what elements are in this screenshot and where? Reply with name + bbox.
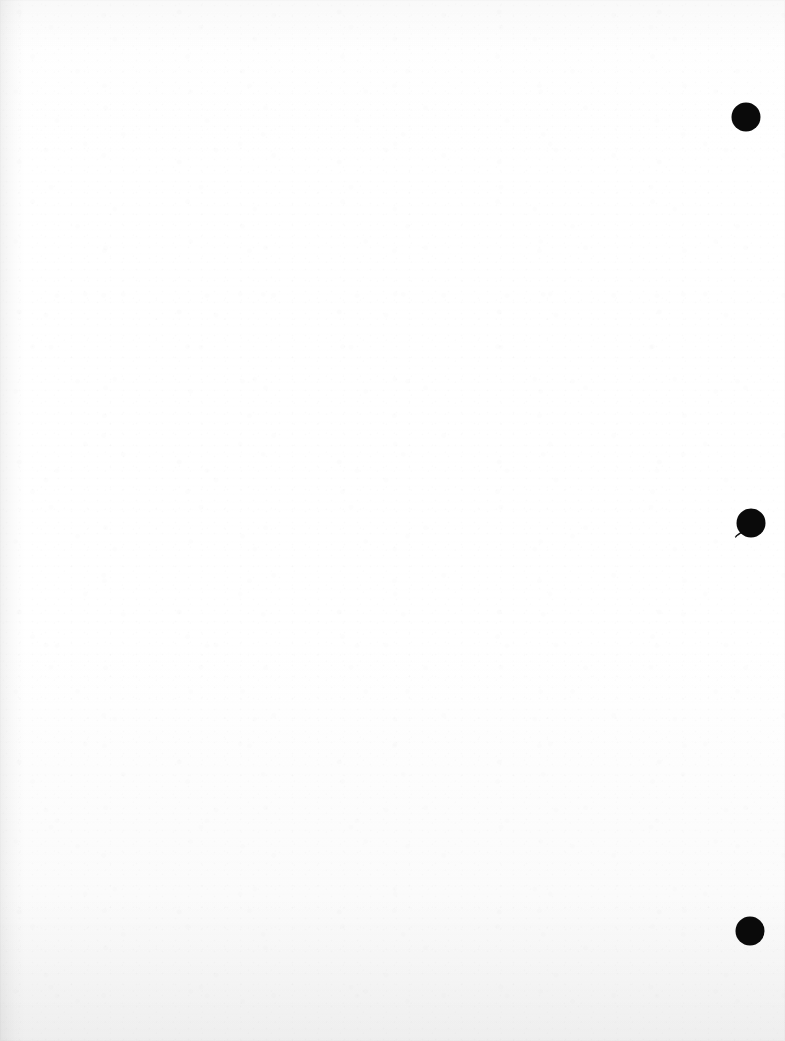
margin-marks-group [0,0,785,1041]
margin-dot-top [726,97,766,137]
scanned-page [0,0,785,1041]
margin-dot-middle [726,498,776,550]
margin-dot-bottom [730,911,770,951]
